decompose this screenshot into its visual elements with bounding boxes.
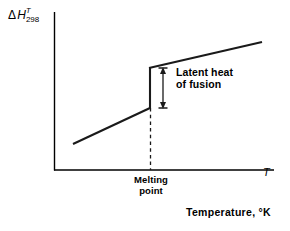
x-axis-title: Temperature, °K bbox=[186, 206, 271, 218]
latent-heat-arrow bbox=[159, 67, 168, 109]
x-axis-symbol: T bbox=[263, 166, 270, 179]
solid-phase-curve bbox=[73, 108, 150, 144]
enthalpy-symbol: H bbox=[17, 8, 26, 22]
liquid-phase-curve bbox=[149, 42, 262, 68]
y-axis-label: ΔHT298 bbox=[8, 9, 44, 23]
y-label-subscript: 298 bbox=[26, 15, 39, 24]
delta-symbol: Δ bbox=[8, 8, 16, 22]
enthalpy-vs-temperature-figure: ΔHT298 Latent heatof fusion Meltingpoint… bbox=[0, 0, 290, 231]
latent-heat-line-2: of fusion bbox=[176, 78, 233, 90]
melting-point-line-2: point bbox=[121, 186, 181, 197]
latent-heat-line-1: Latent heat bbox=[176, 66, 233, 78]
y-label-superscript: T bbox=[26, 6, 31, 15]
melting-point-annotation: Meltingpoint bbox=[121, 175, 181, 197]
latent-heat-annotation: Latent heatof fusion bbox=[176, 66, 233, 90]
